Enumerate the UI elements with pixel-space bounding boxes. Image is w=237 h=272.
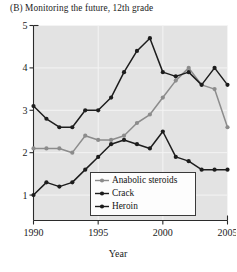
data-point: [122, 134, 126, 138]
data-point: [57, 125, 61, 129]
data-point: [174, 79, 178, 83]
data-point: [109, 95, 113, 99]
data-point: [225, 168, 229, 172]
data-point: [135, 142, 139, 146]
data-point: [212, 87, 216, 91]
data-point: [161, 70, 165, 74]
legend-marker-icon: [94, 175, 110, 186]
legend-item-anabolic-steroids: Anabolic steroids: [94, 174, 193, 187]
data-point: [57, 184, 61, 188]
data-point: [83, 168, 87, 172]
data-point: [109, 138, 113, 142]
data-point: [70, 151, 74, 155]
data-point: [187, 70, 191, 74]
data-point: [148, 36, 152, 40]
data-point: [212, 168, 216, 172]
figure-panel-b: (B) Monitoring the future, 12th grade 12…: [0, 0, 236, 272]
legend-item-heroin: Heroin: [94, 200, 193, 213]
x-tick-label: 1995: [88, 227, 108, 238]
data-point: [122, 70, 126, 74]
data-point: [83, 108, 87, 112]
legend-marker-icon: [94, 201, 110, 212]
data-point: [96, 138, 100, 142]
chart-legend: Anabolic steroids Crack Heroin: [90, 172, 196, 216]
data-point: [135, 49, 139, 53]
data-point: [57, 146, 61, 150]
data-point: [31, 146, 35, 150]
legend-item-crack: Crack: [94, 187, 193, 200]
y-tick-label: 1: [23, 190, 28, 201]
data-point: [174, 74, 178, 78]
data-point: [70, 125, 74, 129]
legend-marker-icon: [94, 188, 110, 199]
data-point: [109, 142, 113, 146]
x-axis-title: Year: [0, 248, 236, 259]
y-tick-label: 5: [23, 20, 28, 31]
legend-label: Anabolic steroids: [112, 175, 177, 186]
data-point: [200, 168, 204, 172]
y-tick-label: 2: [23, 147, 28, 158]
data-point: [96, 108, 100, 112]
data-point: [70, 180, 74, 184]
data-point: [187, 159, 191, 163]
data-point: [122, 138, 126, 142]
x-tick-label: 2005: [218, 227, 237, 238]
data-point: [187, 66, 191, 70]
line-chart: 12345 1990199520002005: [0, 0, 236, 272]
data-point: [44, 117, 48, 121]
data-point: [161, 129, 165, 133]
legend-label: Crack: [112, 188, 134, 199]
data-point: [135, 121, 139, 125]
data-point: [31, 104, 35, 108]
data-point: [44, 146, 48, 150]
data-point: [148, 112, 152, 116]
data-point: [148, 146, 152, 150]
data-point: [174, 155, 178, 159]
x-tick-labels: 1990199520002005: [24, 227, 237, 238]
x-tick-label: 2000: [153, 227, 173, 238]
data-point: [96, 155, 100, 159]
data-point: [225, 83, 229, 87]
data-point: [31, 193, 35, 197]
legend-label: Heroin: [112, 201, 138, 212]
y-tick-labels: 12345: [23, 20, 28, 201]
data-point: [83, 134, 87, 138]
data-point: [44, 180, 48, 184]
data-point: [161, 95, 165, 99]
data-point: [225, 125, 229, 129]
data-point: [212, 66, 216, 70]
y-tick-label: 3: [23, 105, 28, 116]
data-point: [200, 83, 204, 87]
y-tick-label: 4: [23, 62, 28, 73]
x-tick-label: 1990: [24, 227, 44, 238]
